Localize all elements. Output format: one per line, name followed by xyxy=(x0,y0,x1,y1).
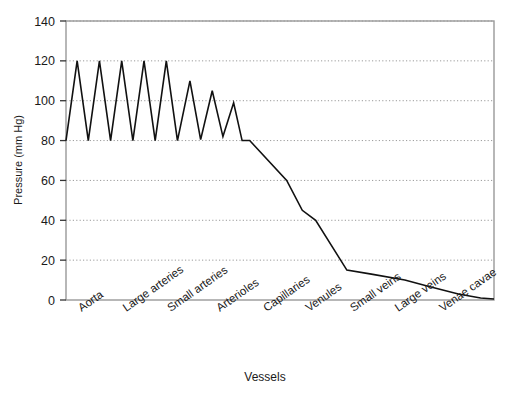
y-axis-tick-label: 120 xyxy=(34,54,55,68)
chart-canvas: 020406080100120140 Pressure (mm Hg) Aort… xyxy=(0,0,505,397)
y-axis-tick-label: 140 xyxy=(34,15,55,29)
blood-pressure-chart: 020406080100120140 Pressure (mm Hg) Aort… xyxy=(0,0,505,397)
chart-background xyxy=(0,0,505,397)
y-axis-tick-label: 100 xyxy=(34,94,55,108)
y-axis-tick-label: 60 xyxy=(41,174,55,188)
y-axis-tick-label: 40 xyxy=(41,214,55,228)
y-axis-tick-label: 80 xyxy=(41,134,55,148)
y-axis-tick-label: 0 xyxy=(48,294,55,308)
x-axis-title: Vessels xyxy=(244,370,285,384)
y-axis-tick-label: 20 xyxy=(41,254,55,268)
y-axis-title: Pressure (mm Hg) xyxy=(12,115,24,205)
